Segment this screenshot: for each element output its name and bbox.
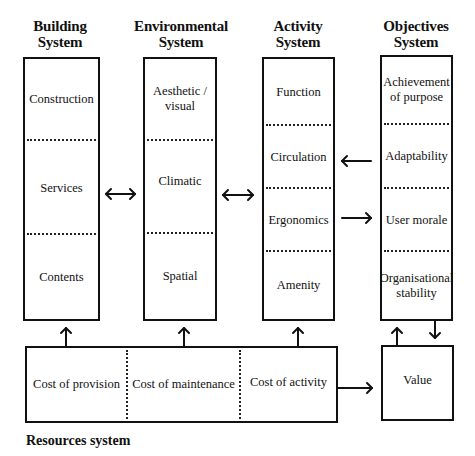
arrow-left-icon <box>342 156 371 166</box>
bidirectional-arrow-icon <box>106 189 135 199</box>
connector-arrows <box>0 0 475 456</box>
arrow-up-icon <box>392 328 402 345</box>
arrow-up-icon <box>293 328 303 346</box>
arrow-up-icon <box>61 328 71 346</box>
arrow-down-icon <box>430 321 440 338</box>
arrow-up-icon <box>179 328 189 346</box>
arrow-right-icon <box>342 213 371 223</box>
bidirectional-arrow-icon <box>223 190 253 200</box>
arrow-right-icon <box>338 383 372 393</box>
